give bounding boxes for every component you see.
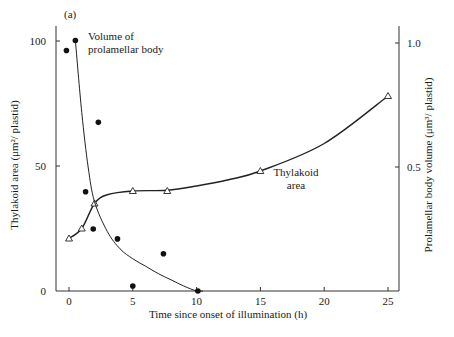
triangle-marker [66, 235, 73, 241]
dot-marker [130, 283, 136, 289]
y-axis-left-title: Thylakoid area (μm²/ plastid) [8, 100, 21, 230]
triangle-marker [385, 93, 392, 99]
dot-marker [96, 120, 102, 126]
annotation-text: Volume of [88, 30, 134, 42]
dot-marker [64, 48, 70, 54]
prolamellar-volume-curve [75, 41, 203, 292]
triangle-marker [78, 225, 85, 231]
y-left-tick-label: 50 [35, 160, 47, 172]
dot-marker [90, 226, 96, 232]
y-right-tick-label: 0.5 [407, 161, 421, 173]
series [64, 38, 392, 294]
y-axis-right-title: Prolamellar body volume (μm³/ plastid) [422, 77, 435, 252]
x-tick-label: 25 [383, 295, 395, 307]
thylakoid-area-curve [69, 96, 388, 239]
dot-marker [161, 251, 167, 257]
dot-marker [195, 288, 201, 294]
annotation-text: area [287, 179, 305, 191]
annotation-text: Thylakoid [273, 166, 319, 178]
panel-label: (a) [64, 8, 77, 21]
annotations: Volume ofprolamellar bodyThylakoidarea [88, 30, 319, 191]
dot-marker [115, 236, 121, 242]
dot-marker [73, 38, 79, 44]
chart: (a) Time since onset of illumination (h)… [0, 0, 454, 337]
axes [56, 26, 399, 291]
annotation-text: prolamellar body [88, 43, 164, 55]
y-left-tick-label: 0 [41, 285, 47, 297]
y-right-tick-label: 1.0 [407, 37, 421, 49]
x-tick-label: 15 [255, 295, 267, 307]
y-left-tick-label: 100 [30, 35, 47, 47]
x-tick-label: 5 [130, 295, 136, 307]
x-axis-title: Time since onset of illumination (h) [149, 308, 307, 321]
dot-marker [83, 189, 89, 195]
x-tick-label: 0 [66, 295, 72, 307]
x-tick-label: 20 [319, 295, 331, 307]
x-tick-label: 10 [191, 295, 203, 307]
